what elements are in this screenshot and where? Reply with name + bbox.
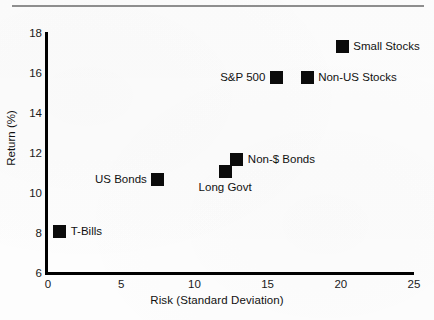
data-point-t-bills[interactable] xyxy=(53,225,66,238)
data-point-s-p-500[interactable] xyxy=(270,71,283,84)
data-point-long-govt[interactable] xyxy=(219,165,232,178)
data-point-non-us-stocks[interactable] xyxy=(301,71,314,84)
top-horizontal-rule xyxy=(12,5,424,7)
x-tick-20: 20 xyxy=(326,278,356,290)
point-label-s-p-500: S&P 500 xyxy=(220,71,265,83)
y-tick-8: 8 xyxy=(16,227,42,239)
point-label-long-govt: Long Govt xyxy=(199,181,252,193)
risk-return-scatter-figure: 681012141618 0510152025 T-BillsUS BondsL… xyxy=(0,0,434,320)
data-point-non-bonds[interactable] xyxy=(230,153,243,166)
y-tick-18: 18 xyxy=(16,27,42,39)
point-label-non-bonds: Non-$ Bonds xyxy=(248,153,315,165)
x-tick-0: 0 xyxy=(33,278,63,290)
y-axis-tick-labels: 681012141618 xyxy=(14,0,42,320)
x-axis-title: Risk (Standard Deviation) xyxy=(0,294,434,306)
x-axis-line xyxy=(45,272,414,275)
data-point-small-stocks[interactable] xyxy=(336,40,349,53)
y-axis-line xyxy=(45,32,48,275)
point-label-small-stocks: Small Stocks xyxy=(353,40,419,52)
point-label-non-us-stocks: Non-US Stocks xyxy=(318,71,397,83)
y-tick-14: 14 xyxy=(16,107,42,119)
y-axis-title: Return (%) xyxy=(5,83,17,193)
x-tick-10: 10 xyxy=(179,278,209,290)
point-label-us-bonds: US Bonds xyxy=(95,173,147,185)
y-tick-10: 10 xyxy=(16,187,42,199)
data-point-us-bonds[interactable] xyxy=(151,173,164,186)
point-label-t-bills: T-Bills xyxy=(71,225,102,237)
y-tick-12: 12 xyxy=(16,147,42,159)
x-tick-5: 5 xyxy=(106,278,136,290)
x-tick-25: 25 xyxy=(399,278,429,290)
y-tick-16: 16 xyxy=(16,67,42,79)
x-tick-15: 15 xyxy=(253,278,283,290)
